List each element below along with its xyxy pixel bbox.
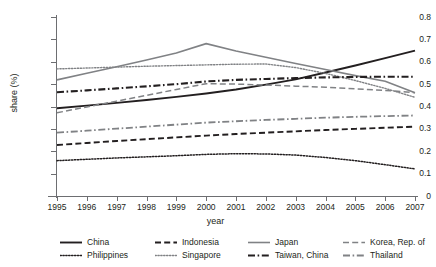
- series-line-indonesia: [57, 127, 415, 145]
- legend-item-china[interactable]: China: [60, 236, 155, 249]
- legend-item-singapore[interactable]: Singapore: [155, 249, 248, 262]
- legend-item-indonesia[interactable]: Indonesia: [155, 236, 248, 249]
- legend-label-taiwan-china: Taiwan, China: [275, 251, 328, 260]
- legend-swatch-singapore: [155, 251, 177, 260]
- legend-swatch-korea-rep-of: [343, 238, 365, 247]
- legend-swatch-indonesia: [155, 238, 177, 247]
- legend-swatch-philippines: [60, 251, 82, 260]
- legend-label-korea-rep-of: Korea, Rep. of: [370, 238, 425, 247]
- series-line-japan: [57, 44, 415, 93]
- legend-item-korea-rep-of[interactable]: Korea, Rep. of: [343, 236, 436, 249]
- legend-label-philippines: Philippines: [87, 251, 128, 260]
- legend-item-taiwan-china[interactable]: Taiwan, China: [248, 249, 343, 262]
- legend-swatch-taiwan-china: [248, 251, 270, 260]
- series-line-singapore: [57, 64, 415, 97]
- legend-label-japan: Japan: [275, 238, 298, 247]
- legend-label-singapore: Singapore: [182, 251, 221, 260]
- legend-label-indonesia: Indonesia: [182, 238, 219, 247]
- legend-item-japan[interactable]: Japan: [248, 236, 343, 249]
- legend-swatch-china: [60, 238, 82, 247]
- legend-item-thailand[interactable]: Thailand: [343, 249, 436, 262]
- series-line-thailand: [57, 115, 415, 132]
- legend-item-philippines[interactable]: Philippines: [60, 249, 155, 262]
- series-line-philippines: [57, 154, 415, 169]
- chart-legend: ChinaIndonesiaJapanKorea, Rep. ofPhilipp…: [60, 236, 420, 262]
- legend-label-china: China: [87, 238, 109, 247]
- legend-swatch-thailand: [343, 251, 365, 260]
- legend-label-thailand: Thailand: [370, 251, 403, 260]
- legend-swatch-japan: [248, 238, 270, 247]
- series-line-korea-rep-of: [57, 84, 415, 113]
